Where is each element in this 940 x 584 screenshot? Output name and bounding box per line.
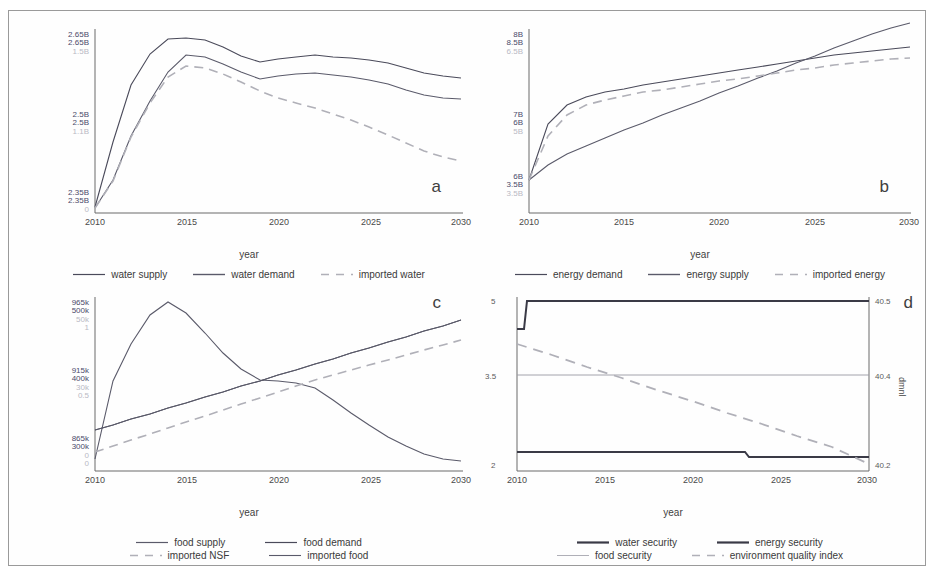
ytick-label: 0 xyxy=(29,452,89,460)
panel-b-xtick: 2030 xyxy=(899,217,919,227)
legend-line-dashed-icon xyxy=(130,551,162,560)
panel-d-xtick: 2030 xyxy=(857,475,877,485)
legend-label: food demand xyxy=(303,537,361,548)
panel-b-xtick: 2015 xyxy=(614,217,634,227)
panel-b-energy: 8B 8.5B 6.5B 7B 6B 5B 6B 3.5B 3.5B 2010 … xyxy=(477,17,923,289)
panel-d-yaxis-right-title: dmnl xyxy=(897,377,907,397)
panel-c-xaxis-title: year xyxy=(23,507,475,518)
ytick-label: 2.35B xyxy=(29,197,89,205)
panel-a-ytick-group-2: 2.5B 2.5B 1.1B xyxy=(29,111,89,136)
series-water-security xyxy=(517,452,869,457)
panel-d-xtick: 2010 xyxy=(507,475,527,485)
panel-a-xtick: 2020 xyxy=(269,217,289,227)
legend-item-environment-quality-index: environment quality index xyxy=(692,550,843,561)
panel-b-xaxis-title: year xyxy=(477,249,923,260)
legend-item-imported-water: imported water xyxy=(321,269,425,280)
legend-line-dashed-icon xyxy=(775,270,807,279)
legend-item-food-demand: food demand xyxy=(265,537,361,548)
legend-item-water-demand: water demand xyxy=(193,269,294,280)
panel-a-xtick: 2030 xyxy=(451,217,471,227)
series-environment-quality-index xyxy=(517,344,869,464)
legend-line-dashed-icon xyxy=(692,551,724,560)
legend-item-water-security: water security xyxy=(577,537,677,548)
legend-label: energy demand xyxy=(553,269,623,280)
ytick-label: 6.5B xyxy=(477,48,523,56)
panel-c-ytick-group-3: 865k 300k 0 0 xyxy=(29,435,89,469)
series-imported-nsf xyxy=(95,340,461,452)
panel-a-xtick: 2015 xyxy=(177,217,197,227)
panel-c-xtick: 2010 xyxy=(85,475,105,485)
panel-d-ytick-right: 40.2 xyxy=(875,461,891,470)
series-water-demand xyxy=(95,55,461,208)
legend-label: water demand xyxy=(231,269,294,280)
series-energy-supply xyxy=(529,23,910,180)
panel-d-ytick-right: 40.5 xyxy=(875,297,891,306)
legend-item-water-supply: water supply xyxy=(73,269,167,280)
panel-a-ytick-group-1: 2.65B 2.65B 1.5B xyxy=(29,31,89,56)
legend-line-solid-icon xyxy=(648,270,680,279)
panel-c-svg xyxy=(23,289,475,505)
legend-label: food supply xyxy=(174,537,225,548)
panel-a-svg xyxy=(23,17,475,233)
legend-label: imported food xyxy=(307,550,368,561)
series-food-supply xyxy=(95,302,461,461)
series-imported-water xyxy=(95,66,461,208)
panel-a-xaxis-title: year xyxy=(23,249,475,260)
panel-d-xtick: 2015 xyxy=(595,475,615,485)
ytick-label: 0 xyxy=(29,460,89,468)
legend-item-imported-nsf: imported NSF xyxy=(130,550,230,561)
panel-b-svg xyxy=(477,17,923,233)
panel-c-xtick: 2025 xyxy=(361,475,381,485)
legend-label: imported energy xyxy=(813,269,885,280)
panel-c-ytick-group-2: 915k 400k 30k 0.5 xyxy=(29,367,89,401)
ytick-label: 0.5 xyxy=(29,392,89,400)
panel-c-plot: 965k 500k 50k 1 915k 400k 30k 0.5 865k 3… xyxy=(23,289,475,505)
ytick-label: 300k xyxy=(29,443,89,451)
legend-label: energy supply xyxy=(686,269,748,280)
legend-line-solid-icon xyxy=(515,270,547,279)
panel-d-letter: d xyxy=(904,293,913,313)
series-water-supply xyxy=(95,38,461,207)
legend-item-imported-food: imported food xyxy=(269,550,368,561)
legend-label: food security xyxy=(595,550,652,561)
legend-line-bold-icon xyxy=(717,538,749,547)
panel-a-plot: 2.65B 2.65B 1.5B 2.5B 2.5B 1.1B 2.35B 2.… xyxy=(23,17,475,233)
legend-label: water security xyxy=(615,537,677,548)
panel-a-legend: water supply water demand imported water xyxy=(23,267,475,280)
legend-item-food-security: food security xyxy=(557,550,652,561)
series-energy-security xyxy=(517,301,869,329)
panel-c-xtick: 2015 xyxy=(177,475,197,485)
ytick-label: 1.1B xyxy=(29,128,89,136)
panel-d-xtick: 2025 xyxy=(771,475,791,485)
panel-d-ytick-left: 3.5 xyxy=(485,372,496,381)
panel-c-letter: c xyxy=(433,293,442,313)
legend-item-imported-energy: imported energy xyxy=(775,269,885,280)
series-energy-demand xyxy=(529,47,910,180)
panel-b-ytick-group-1: 8B 8.5B 6.5B xyxy=(477,31,523,56)
panel-b-xtick: 2020 xyxy=(709,217,729,227)
ytick-label: 0 xyxy=(29,206,89,214)
figure-frame: 2.65B 2.65B 1.5B 2.5B 2.5B 1.1B 2.35B 2.… xyxy=(8,10,926,566)
panel-b-ytick-group-3: 6B 3.5B 3.5B xyxy=(477,173,523,198)
panel-b-xtick: 2010 xyxy=(519,217,539,227)
panel-d-svg xyxy=(477,289,923,505)
panel-a-letter: a xyxy=(432,177,441,197)
panel-d-plot: 5 3.5 2 40.5 40.4 40.2 dmnl 2010 2015 20… xyxy=(477,289,923,505)
panel-b-ytick-group-2: 7B 6B 5B xyxy=(477,111,523,136)
panel-d-legend: water security energy security food secu… xyxy=(477,535,923,561)
series-imported-energy xyxy=(529,58,910,180)
panel-b-xtick: 2025 xyxy=(805,217,825,227)
legend-item-energy-supply: energy supply xyxy=(648,269,748,280)
panel-c-xtick: 2020 xyxy=(269,475,289,485)
legend-label: environment quality index xyxy=(730,550,843,561)
panel-b-legend: energy demand energy supply imported ene… xyxy=(477,267,923,280)
panel-a-xtick: 2010 xyxy=(85,217,105,227)
panel-d-ytick-left: 2 xyxy=(491,461,495,470)
ytick-label: 3.5B xyxy=(477,190,523,198)
legend-line-thin-icon xyxy=(557,551,589,560)
legend-label: imported water xyxy=(359,269,425,280)
panel-a-xtick: 2025 xyxy=(361,217,381,227)
panel-d-ytick-right: 40.4 xyxy=(875,372,891,381)
ytick-label: 1.5B xyxy=(29,48,89,56)
panel-d-xaxis-title: year xyxy=(477,507,869,518)
